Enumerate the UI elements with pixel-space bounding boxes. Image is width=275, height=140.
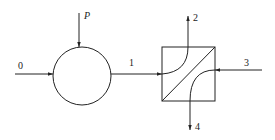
- stream-3: 3: [215, 57, 262, 70]
- stream-p: P: [79, 10, 90, 47]
- exchanger-node: [162, 47, 215, 101]
- stream-4-label: 4: [195, 121, 200, 132]
- exchanger-curve-lower: [190, 70, 215, 101]
- stream-1: 1: [111, 57, 162, 74]
- stream-4: 4: [190, 101, 200, 132]
- process-diagram: 0 P 1 2 3 4: [0, 0, 275, 140]
- stream-2: 2: [188, 12, 198, 47]
- stream-1-label: 1: [129, 57, 134, 68]
- stream-0: 0: [15, 60, 53, 74]
- stream-0-label: 0: [18, 60, 23, 71]
- mixer-node: [53, 47, 111, 105]
- exchanger-curve-upper: [162, 47, 188, 74]
- exchanger-diagonal: [162, 47, 215, 101]
- stream-2-label: 2: [193, 12, 198, 23]
- stream-p-label: P: [83, 10, 90, 21]
- stream-3-label: 3: [244, 57, 249, 68]
